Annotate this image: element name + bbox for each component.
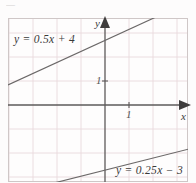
equation-label-lower-line: y = 0.25x − 3 bbox=[116, 164, 183, 176]
equation-label-upper-line: y = 0.5x + 4 bbox=[14, 33, 75, 45]
y-axis-label: y bbox=[95, 17, 100, 29]
x-axis-unit-tick-label: 1 bbox=[126, 108, 132, 120]
x-axis-label: x bbox=[181, 110, 186, 122]
graph-figure: — . . . . bbox=[0, 0, 196, 183]
y-axis-unit-tick-label: 1 bbox=[96, 74, 102, 86]
